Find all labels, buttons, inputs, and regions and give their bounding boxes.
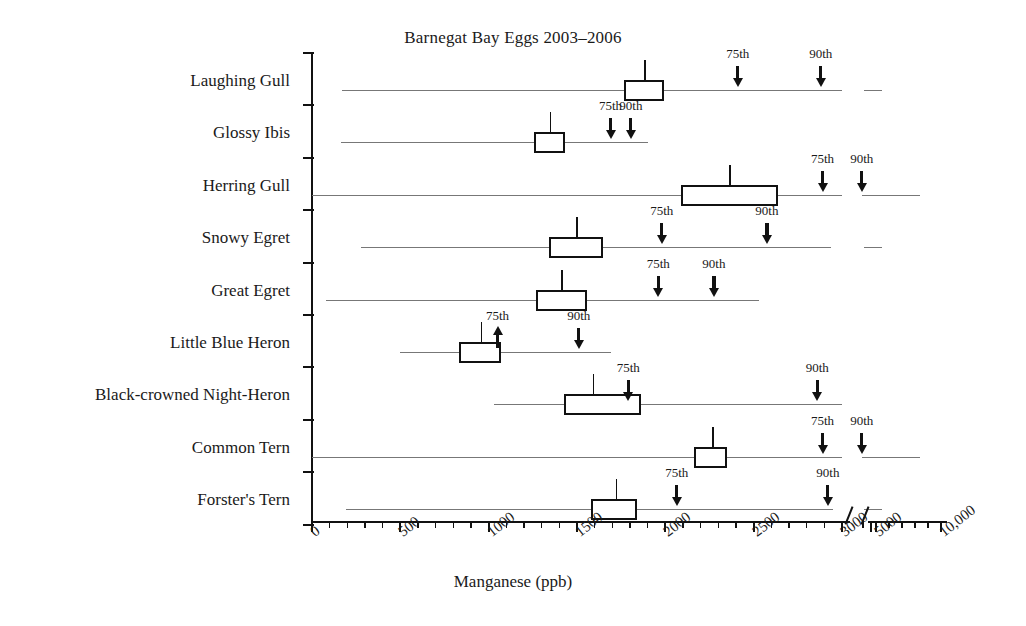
x-axis-label: Manganese (ppb) [0, 572, 1026, 592]
x-axis-minor-tick [927, 521, 928, 528]
box [549, 237, 604, 258]
percentile-p90-label: 90th [816, 466, 839, 479]
percentile-p90-arrow: 90th [808, 374, 826, 404]
x-axis-minor-tick [382, 521, 383, 528]
percentile-p75-arrow: 75th [489, 322, 507, 352]
percentile-p90-label: 90th [806, 361, 829, 374]
category-label: Laughing Gull [0, 72, 290, 89]
arrow-head [816, 78, 826, 87]
x-axis-minor-tick [329, 521, 330, 528]
whisker-line-beyond-break [864, 90, 882, 91]
x-axis-minor-tick [523, 521, 524, 528]
percentile-p75-label: 75th [726, 47, 749, 60]
x-axis-minor-tick [735, 521, 736, 528]
percentile-p75-label: 75th [647, 257, 670, 270]
arrow-head [623, 392, 633, 401]
percentile-p90-label: 90th [619, 99, 642, 112]
percentile-p90-arrow: 90th [758, 217, 776, 247]
percentile-p75-arrow: 75th [649, 270, 667, 300]
y-axis-tick [303, 209, 314, 211]
percentile-p90-arrow: 90th [622, 112, 640, 142]
box-plot-row: Herring Gull75th90th [0, 157, 1026, 209]
percentile-p75-arrow: 75th [668, 479, 686, 509]
category-label-wrap: Black-crowned Night-Heron [0, 386, 300, 403]
whisker-line [400, 352, 610, 353]
percentile-p90-label: 90th [850, 152, 873, 165]
whisker-line [346, 509, 834, 510]
category-label-wrap: Snowy Egret [0, 229, 300, 246]
x-axis-minor-tick [806, 521, 807, 528]
median-tick [644, 60, 646, 82]
arrow-head [823, 497, 833, 506]
percentile-p90-label: 90th [809, 47, 832, 60]
percentile-p90-label: 90th [702, 257, 725, 270]
whisker-line-beyond-break [864, 247, 882, 248]
category-label: Great Egret [0, 282, 290, 299]
arrow-head [574, 340, 584, 349]
percentile-p75-arrow: 75th [619, 374, 637, 404]
percentile-p75-arrow: 75th [729, 60, 747, 90]
percentile-p75-arrow: 75th [653, 217, 671, 247]
x-axis-minor-tick [470, 521, 471, 528]
y-axis-tick [303, 52, 314, 54]
category-label: Black-crowned Night-Heron [0, 386, 290, 403]
x-axis-minor-tick [612, 521, 613, 528]
category-label-wrap: Glossy Ibis [0, 124, 300, 141]
arrow-head [857, 183, 867, 192]
x-axis-minor-tick [914, 521, 915, 528]
category-label: Little Blue Heron [0, 334, 290, 351]
median-tick [616, 479, 618, 501]
x-axis-minor-tick [647, 521, 648, 528]
percentile-p75-arrow: 75th [814, 165, 832, 195]
whisker-line [341, 142, 648, 143]
category-label-wrap: Herring Gull [0, 177, 300, 194]
median-tick [729, 165, 731, 187]
x-axis-tick-label: 0 [307, 522, 323, 540]
box-plot-row: Common Tern75th90th [0, 419, 1026, 471]
arrow-head [626, 130, 636, 139]
category-label: Herring Gull [0, 177, 290, 194]
percentile-p90-arrow: 90th [853, 427, 871, 457]
x-axis-minor-tick [824, 521, 825, 528]
percentile-p75-label: 75th [665, 466, 688, 479]
box-plot-row: Laughing Gull75th90th [0, 52, 1026, 104]
whisker-line [342, 90, 842, 91]
percentile-p75-arrow: 75th [602, 112, 620, 142]
y-axis-tick [303, 366, 314, 368]
x-axis-minor-tick [700, 521, 701, 528]
box [534, 132, 565, 153]
category-label-wrap: Little Blue Heron [0, 334, 300, 351]
x-axis-minor-tick [347, 521, 348, 528]
category-label: Common Tern [0, 439, 290, 456]
x-axis-minor-tick [435, 521, 436, 528]
percentile-p90-arrow: 90th [819, 479, 837, 509]
category-label-wrap: Forster's Tern [0, 491, 300, 508]
arrow-head [812, 392, 822, 401]
category-label: Glossy Ibis [0, 124, 290, 141]
y-axis-tick [303, 104, 314, 106]
median-tick [561, 270, 563, 292]
percentile-p75-label: 75th [486, 309, 509, 322]
whisker-line-beyond-break [862, 195, 920, 196]
percentile-p90-arrow: 90th [570, 322, 588, 352]
median-tick [550, 112, 552, 134]
arrow-head [709, 288, 719, 297]
box-plot-row: Little Blue Heron75th90th [0, 314, 1026, 366]
x-axis-minor-tick [364, 521, 365, 528]
x-axis-minor-tick [718, 521, 719, 528]
arrow-head [818, 183, 828, 192]
y-axis-tick [303, 262, 314, 264]
median-tick [481, 322, 483, 344]
arrow-shaft [496, 334, 499, 348]
percentile-p75-label: 75th [617, 361, 640, 374]
percentile-p90-label: 90th [850, 414, 873, 427]
percentile-p90-arrow: 90th [853, 165, 871, 195]
chart-canvas: Barnegat Bay Eggs 2003–2006 Laughing Gul… [0, 0, 1026, 626]
y-axis-tick [303, 314, 314, 316]
whisker-line-beyond-break [862, 457, 920, 458]
arrow-head [606, 130, 616, 139]
percentile-p90-arrow: 90th [812, 60, 830, 90]
box-plot-row: Great Egret75th90th [0, 262, 1026, 314]
median-tick [712, 427, 714, 449]
percentile-p75-label: 75th [650, 204, 673, 217]
